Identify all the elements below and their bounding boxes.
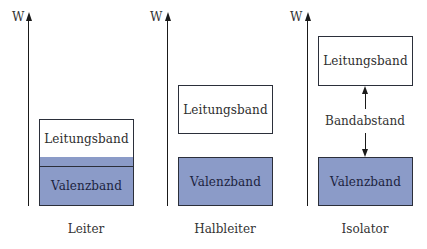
panel-caption: Halbleiter	[175, 222, 275, 236]
valence-band: Valenzband	[178, 157, 273, 206]
conduction-band: Leitungsband	[178, 85, 273, 134]
band-gap-label: Bandabstand	[315, 114, 415, 128]
gap-arrow-down-icon	[362, 149, 368, 157]
conduction-band: Leitungsband	[39, 119, 134, 159]
gap-arrow-line-top	[365, 92, 366, 109]
valence-band-label: Valenzband	[330, 175, 401, 189]
gap-arrow-line-bottom	[365, 133, 366, 150]
panel-caption: Isolator	[315, 222, 415, 236]
energy-axis-label: W	[150, 10, 162, 24]
valence-band: Valenzband	[39, 166, 134, 206]
conduction-band: Leitungsband	[318, 36, 413, 86]
conduction-band-label: Leitungsband	[183, 103, 267, 117]
valence-band: Valenzband	[318, 157, 413, 206]
energy-axis	[28, 18, 29, 206]
energy-axis-label: W	[290, 10, 302, 24]
conduction-band-label: Leitungsband	[44, 132, 128, 146]
energy-axis	[307, 18, 308, 206]
valence-band-label: Valenzband	[51, 179, 122, 193]
conduction-band-label: Leitungsband	[323, 54, 407, 68]
panel-caption: Leiter	[36, 222, 136, 236]
energy-axis	[167, 18, 168, 206]
valence-band-label: Valenzband	[190, 175, 261, 189]
energy-axis-label: W	[12, 10, 24, 24]
